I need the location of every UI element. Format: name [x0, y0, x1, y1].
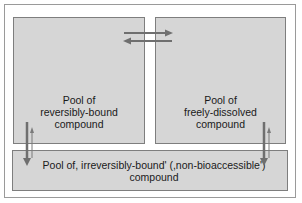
arrow-down-icon — [260, 122, 268, 166]
arrow-left-icon — [123, 38, 172, 45]
arrows-layer — [0, 0, 302, 203]
arrow-up-icon — [267, 127, 271, 158]
arrow-right-icon — [124, 30, 173, 37]
arrow-up-icon — [30, 127, 34, 158]
arrow-down-icon — [23, 122, 31, 166]
